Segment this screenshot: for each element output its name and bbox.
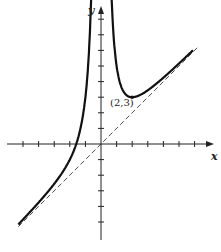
y-axis-label: y bbox=[87, 4, 96, 17]
min-point-label: (2,3) bbox=[110, 97, 134, 108]
asymptote-line bbox=[18, 46, 199, 227]
function-plot: x y (2,3) bbox=[0, 0, 221, 252]
curve-left-branch bbox=[18, 0, 92, 225]
x-axis-label: x bbox=[210, 150, 218, 163]
curve-right-branch bbox=[110, 0, 193, 97]
axes bbox=[7, 6, 214, 240]
